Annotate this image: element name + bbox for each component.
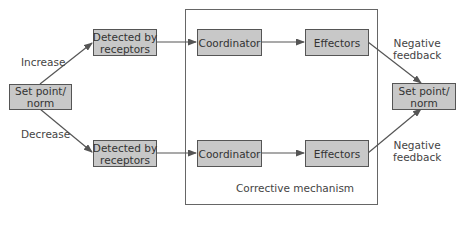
- negative-feedback-top-label: Negative feedback: [393, 37, 441, 61]
- coordinator-bottom-node: Coordinator: [197, 140, 262, 167]
- negative-feedback-bottom-label: Negative feedback: [393, 139, 441, 163]
- receptors-bottom-node: Detected by receptors: [93, 140, 157, 167]
- effectors-bottom-node: Effectors: [305, 140, 369, 167]
- effectors-top-node: Effectors: [305, 29, 369, 56]
- coordinator-top-node: Coordinator: [197, 29, 262, 56]
- setpoint-left-node: Set point/ norm: [9, 84, 72, 110]
- setpoint-right-node: Set point/ norm: [392, 83, 456, 110]
- increase-label: Increase: [21, 56, 65, 68]
- receptors-top-node: Detected by receptors: [93, 29, 157, 56]
- corrective-mechanism-label: Corrective mechanism: [236, 182, 354, 194]
- decrease-label: Decrease: [21, 128, 70, 140]
